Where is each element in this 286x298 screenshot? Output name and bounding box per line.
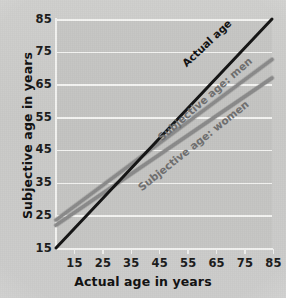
- x-tick-labels: 15 25 35 45 55 65 75 85: [0, 256, 286, 272]
- x-tick-label-55: 55: [175, 256, 201, 270]
- x-tick-label-45: 45: [147, 256, 173, 270]
- y-axis-title: Subjective age in years: [20, 41, 35, 231]
- x-tick-label-25: 25: [90, 256, 116, 270]
- x-tick-label-85: 85: [260, 256, 286, 270]
- x-tick-label-65: 65: [204, 256, 230, 270]
- x-axis-title: Actual age in years: [0, 274, 286, 289]
- x-tick-label-35: 35: [118, 256, 144, 270]
- x-tick-label-75: 75: [232, 256, 258, 270]
- y-tick-label-15: 15: [22, 243, 52, 254]
- chart-figure: Actual age Subjective age: men Subjectiv…: [0, 0, 286, 298]
- x-tick-label-15: 15: [62, 256, 88, 270]
- y-tick-label-85: 85: [22, 14, 52, 25]
